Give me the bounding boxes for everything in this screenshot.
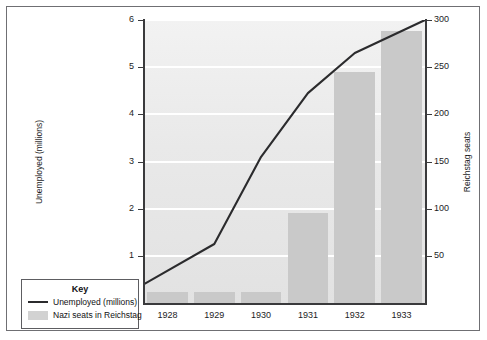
y-axis-left-tick-label-wrap: 1 <box>110 251 134 260</box>
y-axis-left-tick-label: 1 <box>110 251 134 260</box>
y-axis-left-tick <box>138 256 143 257</box>
y-axis-left-title: Unemployed (millions) <box>34 102 44 222</box>
plot-area <box>144 20 425 303</box>
legend-bar-swatch-icon <box>28 311 48 320</box>
y-axis-right-tick-label-wrap: 150 <box>434 157 460 166</box>
y-axis-left-tick-label: 4 <box>110 109 134 118</box>
y-axis-right-tick <box>427 256 432 257</box>
y-axis-left-tick <box>138 20 143 21</box>
y-axis-right-tick-label-wrap: 100 <box>434 204 460 213</box>
y-axis-right-tick-label-wrap: 200 <box>434 109 460 118</box>
legend-item-label: Unemployed (millions) <box>53 297 137 307</box>
legend-line-swatch-icon <box>28 301 48 303</box>
y-axis-left-tick-label-wrap: 3 <box>110 157 134 166</box>
y-axis-right-tick-label: 200 <box>434 109 460 118</box>
y-axis-left-tick-label-wrap: 2 <box>110 204 134 213</box>
y-axis-right-tick <box>427 114 432 115</box>
y-axis-left-tick-label-wrap: 6 <box>110 15 134 24</box>
legend-key-box: Key Unemployed (millions) Nazi seats in … <box>21 279 139 329</box>
legend-item-label: Nazi seats in Reichstag <box>53 310 142 320</box>
y-axis-left-tick <box>138 67 143 68</box>
y-axis-right-tick <box>427 67 432 68</box>
y-axis-right-tick-label: 150 <box>434 157 460 166</box>
y-axis-right-tick-label: 50 <box>434 251 460 260</box>
y-axis-right-tick-label: 300 <box>434 15 460 24</box>
y-axis-left-tick <box>138 209 143 210</box>
y-axis-right-tick <box>427 162 432 163</box>
y-axis-right-tick-label: 100 <box>434 204 460 213</box>
legend-title: Key <box>22 284 138 294</box>
x-axis-tick-label: 1928 <box>143 310 191 320</box>
y-axis-right-tick-label: 250 <box>434 62 460 71</box>
figure-frame: 123456 50100150200250300 192819291930193… <box>6 6 480 331</box>
y-axis-left-tick-label-wrap: 5 <box>110 62 134 71</box>
y-axis-right-tick <box>427 209 432 210</box>
y-axis-left-tick <box>138 114 143 115</box>
y-axis-right-tick <box>427 20 432 21</box>
y-axis-left-tick <box>138 162 143 163</box>
y-axis-left-tick-label: 3 <box>110 157 134 166</box>
legend-item-unemployed: Unemployed (millions) <box>22 297 138 307</box>
y-axis-left-tick-label-wrap: 4 <box>110 109 134 118</box>
x-axis-tick-label: 1931 <box>284 310 332 320</box>
chart-figure: 123456 50100150200250300 192819291930193… <box>0 0 487 340</box>
x-axis-tick-label: 1929 <box>190 310 238 320</box>
x-axis-tick-label: 1933 <box>378 310 426 320</box>
y-axis-right-tick-label-wrap: 300 <box>434 15 460 24</box>
y-axis-left-spine <box>143 19 145 305</box>
x-axis-tick-label: 1932 <box>331 310 379 320</box>
y-axis-left-tick-label: 2 <box>110 204 134 213</box>
y-axis-left-tick-label: 6 <box>110 15 134 24</box>
y-axis-right-tick-label-wrap: 250 <box>434 62 460 71</box>
y-axis-left-tick-label: 5 <box>110 62 134 71</box>
y-axis-right-tick-label-wrap: 50 <box>434 251 460 260</box>
legend-item-nazi-seats: Nazi seats in Reichstag <box>22 310 138 320</box>
x-axis-spine <box>143 303 427 305</box>
line-series-unemployed <box>144 20 425 303</box>
y-axis-right-title: Reichstag seats <box>462 102 472 222</box>
x-axis-tick-label: 1930 <box>237 310 285 320</box>
